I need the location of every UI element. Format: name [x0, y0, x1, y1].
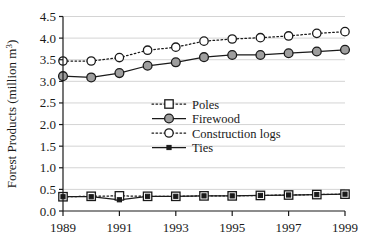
data-point-marker [341, 45, 350, 54]
data-point-marker [284, 49, 293, 58]
data-point-marker [143, 46, 151, 54]
data-point-marker [89, 195, 93, 199]
data-point-marker [313, 29, 321, 37]
y-axis-tick-label: 2.0 [40, 117, 56, 132]
data-point-marker [312, 47, 321, 56]
legend-label: Poles [192, 98, 219, 112]
data-point-marker [202, 194, 206, 198]
data-point-marker [258, 193, 262, 197]
x-axis-tick-label: 1991 [106, 220, 132, 235]
data-point-marker [172, 43, 180, 51]
data-point-marker [171, 58, 180, 67]
data-point-marker [343, 192, 347, 196]
data-point-marker [115, 69, 124, 78]
data-point-marker [117, 198, 121, 202]
y-axis-tick-label: 3.5 [40, 52, 56, 67]
data-point-marker [228, 51, 237, 60]
legend-label: Ties [192, 141, 213, 155]
data-point-marker [115, 53, 123, 61]
data-point-marker [87, 73, 96, 82]
data-point-marker [165, 114, 174, 123]
data-point-marker [341, 27, 349, 35]
y-axis-title: Forest Products (million m3) [4, 40, 19, 189]
data-point-marker [256, 33, 264, 41]
forest-products-line-chart: 0.00.51.01.52.02.53.03.54.04.5 198919911… [0, 0, 367, 252]
data-point-marker [284, 32, 292, 40]
data-point-marker [315, 192, 319, 196]
y-axis-tick-label: 3.0 [40, 74, 56, 89]
x-axis-tick-label: 1995 [219, 220, 245, 235]
x-axis-tick-label: 1997 [276, 220, 303, 235]
data-point-marker [200, 37, 208, 45]
data-point-marker [165, 100, 173, 108]
data-point-marker [143, 61, 152, 70]
svg-text:Forest Products (million m3): Forest Products (million m3) [4, 40, 19, 189]
y-axis-tick-label: 2.5 [40, 95, 56, 110]
chart-canvas: 0.00.51.01.52.02.53.03.54.04.5 198919911… [0, 0, 367, 252]
y-axis-tick-label: 0.5 [40, 182, 56, 197]
data-point-marker [167, 145, 171, 149]
y-axis-tick-label: 1.5 [40, 139, 56, 154]
data-point-marker [256, 51, 265, 60]
data-point-marker [146, 194, 150, 198]
data-point-marker [174, 194, 178, 198]
y-axis-tick-label: 1.0 [40, 160, 56, 175]
data-point-marker [230, 194, 234, 198]
data-point-marker [165, 129, 173, 137]
x-axis-tick-label: 1993 [163, 220, 189, 235]
data-point-marker [228, 35, 236, 43]
x-axis-tick-label: 1999 [332, 220, 358, 235]
y-axis-tick-label: 0.0 [40, 204, 56, 219]
data-point-marker [287, 193, 291, 197]
legend-label: Firewood [192, 112, 241, 126]
data-point-marker [200, 53, 209, 62]
data-point-marker [87, 57, 95, 65]
y-axis-tick-label: 4.5 [40, 9, 56, 24]
x-axis-tick-label: 1989 [50, 220, 76, 235]
legend-label: Construction logs [192, 127, 281, 141]
y-axis-tick-label: 4.0 [40, 31, 56, 46]
